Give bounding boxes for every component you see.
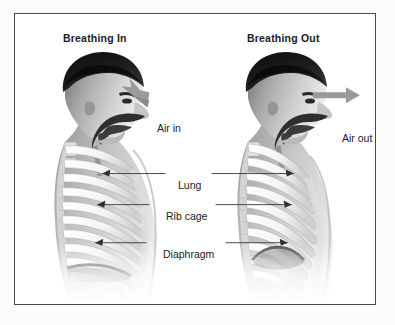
label-diaphragm: Diaphragm <box>160 248 217 260</box>
label-air-in: Air in <box>157 122 181 134</box>
breathing-in-illustration <box>37 46 187 304</box>
eye <box>122 98 132 103</box>
bottom-fade <box>220 242 370 304</box>
label-lung: Lung <box>175 179 204 191</box>
panel-title-breathing-in: Breathing In <box>63 32 127 44</box>
panel-title-breathing-out: Breathing Out <box>247 32 320 44</box>
label-air-out: Air out <box>342 132 372 144</box>
breathing-out-illustration <box>220 46 370 304</box>
label-rib-cage: Rib cage <box>163 210 210 222</box>
eye <box>305 98 315 103</box>
diagram-frame: Breathing In Breathing Out Lung Rib cage… <box>14 13 376 305</box>
